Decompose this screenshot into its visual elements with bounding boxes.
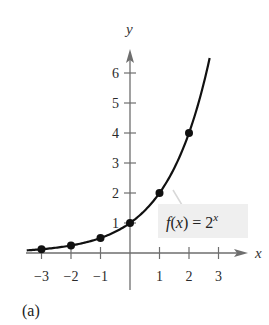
leader-line xyxy=(173,190,182,205)
x-tick-label: −1 xyxy=(93,269,108,284)
exponential-chart: −3−2−1123123456xyf(x) = 2x(a) xyxy=(0,0,269,325)
y-axis-label: y xyxy=(124,21,133,37)
x-tick-label: 2 xyxy=(186,269,193,284)
data-point xyxy=(97,234,105,242)
y-tick-label: 4 xyxy=(112,126,119,141)
data-point xyxy=(126,219,134,227)
y-tick-label: 5 xyxy=(112,96,119,111)
axes xyxy=(26,49,248,290)
y-tick-label: 2 xyxy=(112,186,119,201)
x-tick-label: 3 xyxy=(215,269,222,284)
data-point xyxy=(156,189,164,197)
panel-label: (a) xyxy=(22,302,40,320)
x-axis-label: x xyxy=(254,245,262,261)
data-point xyxy=(38,245,46,253)
x-tick-label: −3 xyxy=(34,269,49,284)
y-tick-label: 6 xyxy=(112,66,119,81)
data-point xyxy=(185,129,193,137)
function-label: f(x) = 2x xyxy=(166,211,218,232)
x-tick-label: 1 xyxy=(156,269,163,284)
labels: −3−2−1123123456xyf(x) = 2x(a) xyxy=(22,21,262,320)
y-tick-label: 1 xyxy=(112,216,119,231)
x-tick-label: −2 xyxy=(64,269,79,284)
data-point xyxy=(67,242,75,250)
y-tick-label: 3 xyxy=(112,156,119,171)
